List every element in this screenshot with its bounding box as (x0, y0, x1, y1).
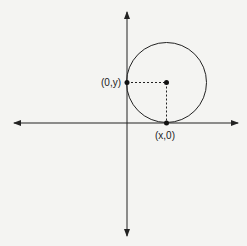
x-tangent-point (164, 121, 169, 126)
center-point (164, 80, 169, 85)
y-tangent-point (125, 80, 130, 85)
x-point-label: (x,0) (155, 130, 175, 141)
y-point-label: (0,y) (101, 77, 121, 88)
coordinate-diagram: (0,y) (x,0) (0, 0, 247, 246)
